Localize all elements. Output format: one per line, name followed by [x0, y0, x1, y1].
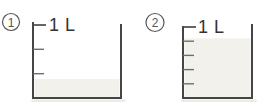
beaker-2-capacity-label: 1 L: [198, 17, 225, 37]
beaker-2-water-fill: [185, 38, 251, 97]
beaker-2-shadow: [181, 99, 257, 102]
diagram-canvas: 1 1 L 2 1 L: [0, 0, 259, 105]
measuring-containers-diagram: 1 1 L 2 1 L: [0, 0, 259, 105]
figure-1-number: 1: [8, 16, 15, 30]
beaker-1-shadow: [31, 99, 126, 102]
figure-2: 2 1 L: [146, 14, 257, 103]
beaker-1: [31, 22, 126, 102]
beaker-1-water-fill: [35, 79, 120, 97]
figure-2-number-badge: 2: [146, 14, 164, 32]
figure-2-number: 2: [152, 16, 159, 30]
beaker-1-capacity-label: 1 L: [49, 15, 76, 35]
figure-1: 1 1 L: [3, 14, 127, 103]
figure-1-number-badge: 1: [3, 14, 20, 31]
